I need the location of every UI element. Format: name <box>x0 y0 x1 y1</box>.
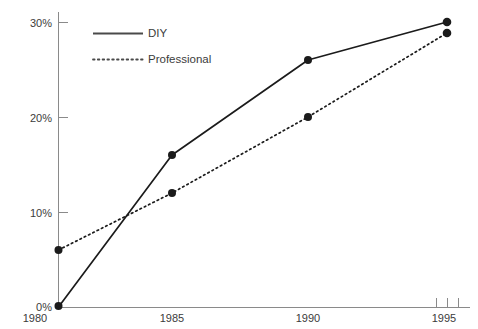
x-axis-labels: 1980 1985 1990 1995 <box>23 312 456 324</box>
data-point-professional-1985 <box>168 189 176 197</box>
y-tick-label-10: 10% <box>30 207 52 219</box>
x-tick-label-1995: 1995 <box>432 312 456 324</box>
data-point-diy-1985 <box>168 151 176 159</box>
x-tick-label-1980: 1980 <box>23 312 47 324</box>
series-diy-line <box>59 22 448 307</box>
x-tick-label-1990: 1990 <box>296 312 320 324</box>
legend-item-diy: DIY <box>93 27 168 39</box>
data-point-diy-1990 <box>304 56 312 64</box>
x-tick-label-1985: 1985 <box>160 312 184 324</box>
legend-label-professional: Professional <box>148 53 211 65</box>
data-point-professional-1980 <box>55 246 63 254</box>
y-tick-label-30: 30% <box>30 17 52 29</box>
data-point-professional-1990 <box>304 113 312 121</box>
series-professional-line <box>59 33 448 250</box>
y-axis-ticks: 30% 20% 10% 0% <box>30 17 68 314</box>
data-point-professional-1995 <box>443 29 452 38</box>
x-axis-minor-ticks <box>437 298 459 308</box>
data-point-diy-1995 <box>443 18 452 27</box>
data-point-diy-1980 <box>55 302 63 310</box>
chart-legend: DIY Professional <box>93 27 211 65</box>
line-chart-figure: 30% 20% 10% 0% 1980 1985 1990 1995 <box>0 0 478 329</box>
legend-item-professional: Professional <box>93 53 211 65</box>
series-diy <box>55 18 452 310</box>
series-professional <box>55 29 452 254</box>
chart-canvas: 30% 20% 10% 0% 1980 1985 1990 1995 <box>0 0 478 329</box>
y-tick-label-20: 20% <box>30 112 52 124</box>
legend-label-diy: DIY <box>148 27 168 39</box>
